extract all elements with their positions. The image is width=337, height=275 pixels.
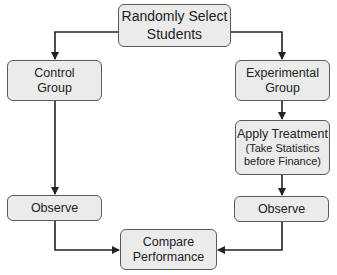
node-label-line1: Randomly Select	[122, 8, 228, 26]
node-label-line2: (Take Statistics	[246, 142, 320, 155]
node-label: Observe	[31, 201, 78, 216]
node-label: Observe	[258, 202, 305, 217]
node-observe-control: Observe	[7, 195, 102, 221]
node-control-group: Control Group	[7, 60, 102, 101]
node-label-line2: Group	[265, 81, 300, 96]
node-label-line1: Experimental	[246, 66, 319, 81]
node-label-line2: Performance	[133, 250, 205, 265]
node-compare-performance: Compare Performance	[120, 229, 217, 270]
node-observe-experimental: Observe	[234, 196, 329, 222]
node-experimental-group: Experimental Group	[235, 60, 330, 101]
edge-top-to-control	[55, 32, 118, 59]
node-randomly-select-students: Randomly Select Students	[118, 4, 231, 47]
edge-top-to-experimental	[231, 32, 282, 59]
node-label-line1: Compare	[143, 235, 194, 250]
edge-observe-left-to-compare	[55, 221, 119, 250]
node-apply-treatment: Apply Treatment (Take Statistics before …	[235, 120, 330, 175]
node-label-line1: Apply Treatment	[237, 127, 328, 142]
node-label-line2: Students	[147, 26, 202, 44]
edge-observe-right-to-compare	[218, 222, 282, 250]
node-label-line3: before Finance)	[244, 155, 321, 168]
node-label-line1: Control	[34, 66, 74, 81]
node-label-line2: Group	[37, 81, 72, 96]
